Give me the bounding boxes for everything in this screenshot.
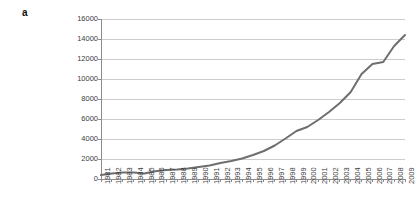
x-tick-label: 2000 [310,167,318,184]
x-tick-label: 1982 [115,167,123,184]
x-tick-label: 2009 [408,167,416,184]
x-tick-label: 1996 [267,167,275,184]
x-tick-label: 2001 [321,167,329,184]
x-tick-label: 1993 [234,167,242,184]
x-tick-label: 1992 [224,167,232,184]
x-tick-label: 1981 [104,167,112,184]
x-tick-label: 2005 [365,167,373,184]
x-tick-label: 1999 [300,167,308,184]
x-tick-label: 2007 [386,167,394,184]
x-tick-label: 2003 [343,167,351,184]
x-tick-label: 1985 [148,167,156,184]
x-tick-label: 1988 [180,167,188,184]
x-tick-label: 1983 [126,167,134,184]
x-tick-label: 1987 [169,167,177,184]
x-tick-label: 1986 [158,167,166,184]
line-chart: 0200040006000800010000120001400016000 19… [0,0,419,220]
x-tick-label: 2002 [332,167,340,184]
x-tick-label: 2008 [397,167,405,184]
x-tick-label: 2006 [376,167,384,184]
x-tick-label: 1998 [289,167,297,184]
x-tick-label: 1997 [278,167,286,184]
figure-root: a 0200040006000800010000120001400016000 … [0,0,419,220]
x-tick-label: 1994 [245,167,253,184]
x-tick-label: 1989 [191,167,199,184]
x-tick-label: 1995 [256,167,264,184]
x-tick-label: 1990 [202,167,210,184]
x-tick-label: 1991 [213,167,221,184]
x-tick-label: 2004 [354,167,362,184]
x-axis-tick-labels: 1981198219831984198519861987198819891990… [0,0,419,220]
x-tick-label: 1984 [137,167,145,184]
